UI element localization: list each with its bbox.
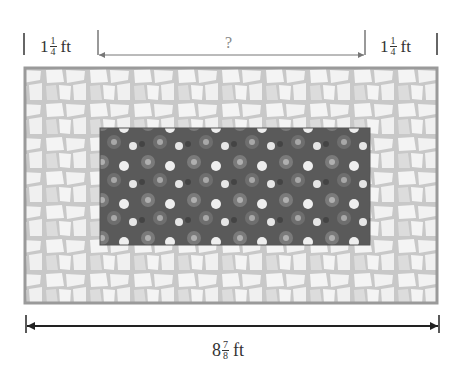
whole-part: 1 [380, 37, 389, 57]
fraction: 1 4 [390, 36, 397, 57]
denominator: 4 [391, 47, 396, 57]
unit: ft [401, 37, 411, 57]
whole-part: 8 [212, 340, 221, 361]
total-width-line [26, 315, 439, 333]
left-border-label: 1 1 4 ft [40, 36, 71, 57]
unit: ft [233, 340, 244, 361]
whole-part: 1 [40, 37, 49, 57]
denominator: 8 [223, 351, 228, 361]
total-width-label: 8 7 8 ft [212, 340, 244, 361]
unit: ft [61, 37, 71, 57]
fraction: 7 8 [222, 340, 229, 361]
unknown-width-label: ? [225, 34, 232, 52]
fraction: 1 4 [50, 36, 57, 57]
denominator: 4 [51, 47, 56, 57]
flower-bed [100, 128, 370, 245]
right-border-label: 1 1 4 ft [380, 36, 411, 57]
